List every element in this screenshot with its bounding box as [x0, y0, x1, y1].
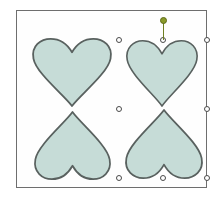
shape-heart-bottom-left[interactable] [33, 112, 112, 180]
drawing-app-window [0, 0, 222, 198]
heart-icon [124, 110, 204, 179]
shape-heart-bottom-right[interactable] [124, 110, 204, 179]
shape-heart-top-right[interactable] [125, 40, 199, 106]
rotation-handle-stem [163, 20, 164, 40]
handle-top-right[interactable] [204, 37, 210, 43]
handle-top-left[interactable] [116, 37, 122, 43]
canvas-content-layer [17, 11, 206, 187]
handle-bottom-left[interactable] [116, 175, 122, 181]
handle-middle-right[interactable] [204, 106, 210, 112]
shape-heart-top-left[interactable] [31, 38, 113, 106]
handle-bottom-right[interactable] [204, 175, 210, 181]
heart-icon [125, 40, 199, 106]
heart-icon [33, 112, 112, 180]
heart-icon [31, 38, 113, 106]
rotation-handle[interactable] [160, 17, 167, 24]
drawing-canvas[interactable] [16, 10, 207, 188]
handle-middle-left[interactable] [116, 106, 122, 112]
